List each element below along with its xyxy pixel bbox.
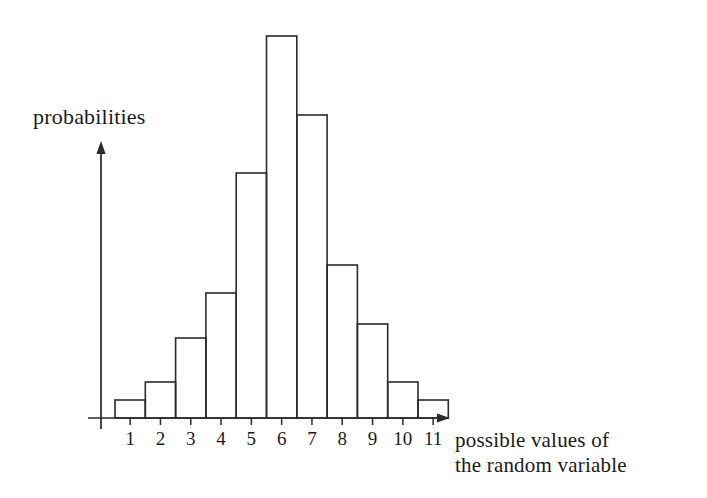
histogram-bar: [236, 173, 266, 418]
histogram-bar: [418, 400, 448, 418]
histogram-bar: [327, 265, 357, 418]
histogram-bar: [176, 338, 206, 418]
x-axis-tick-label: 10: [393, 428, 412, 450]
x-axis-tick-label: 7: [307, 428, 317, 450]
histogram-bar: [388, 382, 418, 418]
histogram-bar: [206, 293, 236, 418]
x-axis-tick-label: 1: [125, 428, 135, 450]
x-axis-tick-label: 2: [156, 428, 166, 450]
probability-histogram-figure: probabilities possible values ofthe rand…: [0, 0, 707, 498]
axes: [88, 141, 450, 429]
histogram-plot: [0, 0, 707, 498]
histogram-bar: [115, 400, 145, 418]
histogram-bars: [115, 36, 448, 418]
histogram-bar: [145, 382, 175, 418]
x-axis-tick-label: 5: [247, 428, 257, 450]
x-axis-tick-label: 6: [277, 428, 287, 450]
x-axis-tick-label: 8: [338, 428, 348, 450]
histogram-bar: [297, 115, 327, 418]
histogram-bar: [357, 324, 387, 418]
x-axis-tick-label: 3: [186, 428, 196, 450]
histogram-bar: [267, 36, 297, 418]
x-axis-tick-label: 9: [368, 428, 378, 450]
x-axis-title: possible values ofthe random variable: [455, 428, 627, 478]
x-axis-tick-label: 11: [424, 428, 442, 450]
y-axis-arrowhead-icon: [96, 141, 105, 154]
y-axis-title: probabilities: [33, 104, 146, 130]
x-axis-tick-label: 4: [216, 428, 226, 450]
x-axis-title-line-1: possible values of: [455, 428, 627, 453]
x-axis-ticks: [130, 418, 433, 425]
x-axis-title-line-2: the random variable: [455, 453, 627, 478]
